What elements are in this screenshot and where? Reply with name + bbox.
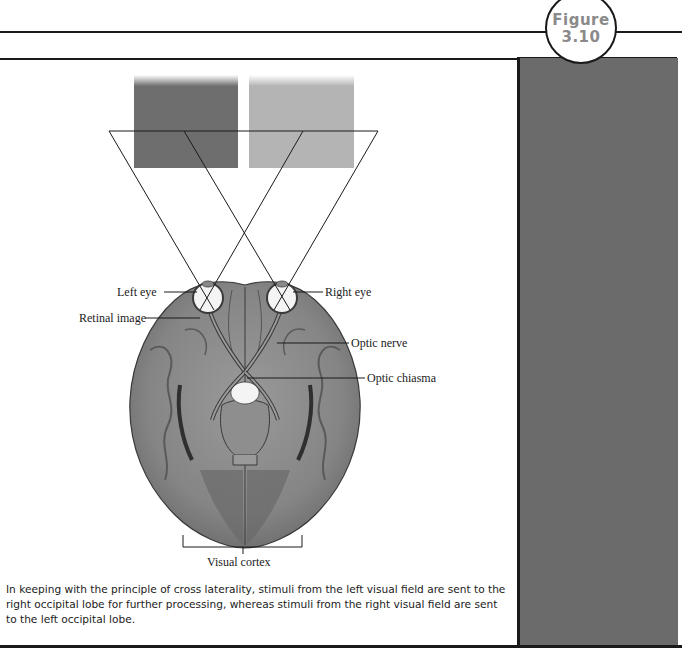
right-eyeball (267, 283, 297, 313)
label-retinal-image: Retinal image (79, 311, 146, 326)
visual-pathway-diagram (0, 0, 520, 580)
top-rule-upper-right (614, 31, 682, 33)
bottom-rule (0, 645, 682, 648)
label-left-eye: Left eye (117, 285, 157, 300)
side-panel (517, 58, 678, 645)
figure-badge: Figure 3.10 (545, 0, 617, 64)
brain-illustration (130, 281, 360, 548)
left-visual-field-square (134, 75, 238, 168)
label-right-eye: Right eye (325, 285, 371, 300)
label-optic-chiasma: Optic chiasma (367, 371, 436, 386)
label-visual-cortex: Visual cortex (207, 555, 271, 570)
right-visual-field-square (249, 75, 354, 168)
left-eyeball (193, 283, 223, 313)
label-optic-nerve: Optic nerve (351, 336, 407, 351)
figure-badge-word: Figure (552, 12, 609, 28)
figure-caption: In keeping with the principle of cross l… (6, 582, 506, 627)
figure-badge-number: 3.10 (561, 28, 600, 45)
